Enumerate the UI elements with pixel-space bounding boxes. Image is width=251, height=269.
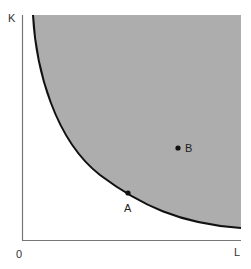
point-a-marker: [125, 190, 130, 195]
diagram: A B K L 0: [0, 0, 251, 269]
point-b-marker: [175, 145, 180, 150]
shaded-region: [33, 15, 241, 228]
point-a-label: A: [124, 202, 132, 214]
y-axis-label: K: [8, 12, 16, 24]
x-axis-label: L: [234, 246, 240, 258]
point-b-label: B: [185, 142, 192, 154]
origin-label: 0: [16, 248, 22, 260]
